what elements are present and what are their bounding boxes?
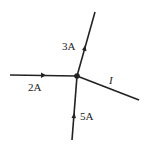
label-i: I <box>109 75 113 86</box>
label-3a: 3A <box>62 41 75 52</box>
junction-diagram <box>0 0 146 149</box>
arrow-left-icon <box>41 73 46 79</box>
label-2a: 2A <box>28 82 41 93</box>
wire-right <box>77 76 139 100</box>
wire-down <box>72 76 77 140</box>
junction-node <box>74 73 80 79</box>
wire-up <box>77 12 95 76</box>
label-5a: 5A <box>80 111 93 122</box>
